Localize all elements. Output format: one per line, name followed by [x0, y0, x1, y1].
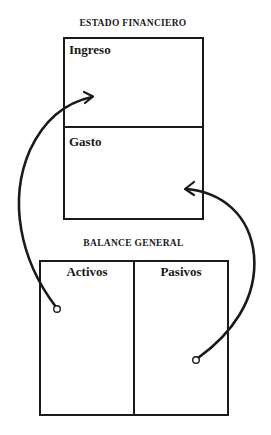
liabilities-to-expense-arrow — [186, 189, 254, 358]
assets-origin-dot — [54, 306, 61, 313]
assets-to-income-arrow — [19, 97, 92, 307]
liabilities-origin-dot — [193, 357, 200, 364]
connector-layer — [0, 0, 271, 435]
